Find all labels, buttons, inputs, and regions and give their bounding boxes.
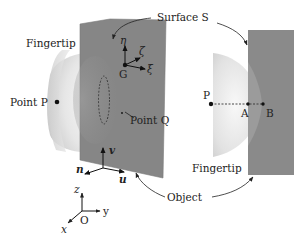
u-label: u xyxy=(119,173,127,185)
point-a-label: A xyxy=(240,107,249,119)
point-b-label: B xyxy=(266,107,274,119)
contact-shade xyxy=(73,56,117,144)
z-label: z xyxy=(73,183,80,195)
frame-world: z y x O xyxy=(61,183,109,235)
point-b-marker xyxy=(261,102,264,105)
surface-s-arrow-right xyxy=(217,23,247,45)
point-q-marker xyxy=(121,112,123,114)
surface-s-label: Surface S xyxy=(157,11,209,23)
object-arrow-right xyxy=(212,177,253,197)
point-p-left-label: Point P xyxy=(10,96,48,108)
point-q-label: Point Q xyxy=(130,114,170,126)
diagram-canvas: Point P Fingertip G η ζ ξ Point Q v n u … xyxy=(0,0,306,245)
g-label: G xyxy=(119,68,127,80)
n-axis-arrow xyxy=(85,168,103,174)
eta-label: η xyxy=(120,34,127,46)
y-label: y xyxy=(102,205,109,217)
n-label: n xyxy=(76,163,84,175)
fingertip-left-label: Fingertip xyxy=(26,37,76,49)
fingertip-right-label: Fingertip xyxy=(192,162,242,174)
object-label: Object xyxy=(167,191,203,203)
origin-label: O xyxy=(80,214,89,226)
point-p-right-label: P xyxy=(203,89,210,101)
point-p-left-marker xyxy=(55,100,60,105)
x-label: x xyxy=(61,223,67,235)
point-p-right-marker xyxy=(209,102,213,106)
point-a-marker xyxy=(246,102,249,105)
v-label: v xyxy=(109,144,116,156)
